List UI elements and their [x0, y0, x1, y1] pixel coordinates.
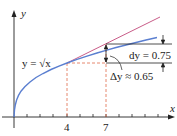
dy-label: dy = 0.75 [129, 49, 171, 61]
delta-y-label: Δy ≈ 0.65 [110, 70, 154, 82]
axes [2, 10, 175, 128]
y-axis-label: y [20, 7, 26, 19]
tick-label-4: 4 [64, 121, 70, 133]
x-axis-label: x [169, 102, 175, 114]
tick-label-7: 7 [103, 121, 109, 133]
diagram-canvas: y x 4 7 y = √x dy = 0.75 Δy ≈ 0.65 [0, 0, 177, 136]
curve-label: y = √x [22, 57, 51, 69]
guide-lines [67, 44, 106, 117]
